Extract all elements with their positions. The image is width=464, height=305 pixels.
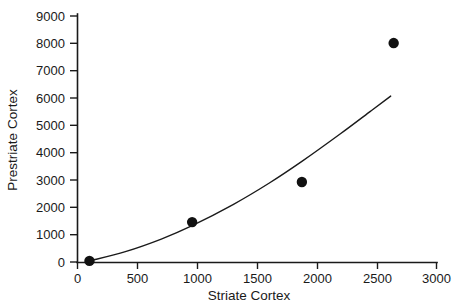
x-axis-title: Striate Cortex	[208, 288, 291, 303]
y-axis-ticks	[70, 16, 77, 262]
y-tick-label-0: 0	[58, 255, 65, 270]
data-point	[84, 256, 94, 266]
y-axis-tick-labels: 0 1000 2000 3000 4000 5000 6000 7000 800…	[36, 9, 65, 270]
y-tick-label-5000: 5000	[36, 118, 65, 133]
y-tick-label-6000: 6000	[36, 91, 65, 106]
data-point	[297, 177, 307, 187]
data-point	[388, 38, 398, 48]
scatter-plot: 0 1000 2000 3000 4000 5000 6000 7000 800…	[0, 0, 464, 305]
y-tick-label-9000: 9000	[36, 9, 65, 24]
y-axis-title: Prestriate Cortex	[5, 89, 20, 191]
chart-figure: 0 1000 2000 3000 4000 5000 6000 7000 800…	[0, 0, 464, 305]
data-point	[187, 217, 197, 227]
x-tick-label-0: 0	[74, 271, 81, 286]
y-tick-label-7000: 7000	[36, 63, 65, 78]
x-tick-label-1000: 1000	[183, 271, 212, 286]
x-tick-label-500: 500	[127, 271, 149, 286]
x-tick-label-2000: 2000	[303, 271, 332, 286]
x-tick-label-2500: 2500	[363, 271, 392, 286]
fitted-curve	[89, 96, 390, 261]
data-points-group	[84, 38, 399, 266]
y-tick-label-1000: 1000	[36, 227, 65, 242]
y-tick-label-3000: 3000	[36, 173, 65, 188]
x-tick-label-1500: 1500	[243, 271, 272, 286]
x-axis-tick-labels: 0 500 1000 1500 2000 2500 3000	[74, 271, 451, 286]
y-tick-label-4000: 4000	[36, 145, 65, 160]
y-tick-label-8000: 8000	[36, 36, 65, 51]
y-tick-label-2000: 2000	[36, 200, 65, 215]
x-tick-label-3000: 3000	[422, 271, 451, 286]
